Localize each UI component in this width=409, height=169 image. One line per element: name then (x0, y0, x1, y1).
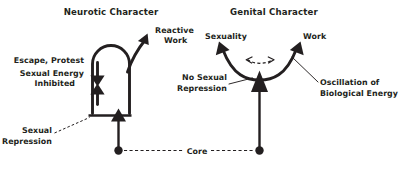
reactive-work-arrow-shaft (128, 40, 146, 73)
no-sexual-repression-label-line1: No Sexual (182, 73, 227, 82)
work-arrowhead (290, 42, 304, 56)
core-label: Core (187, 147, 208, 156)
no-sexual-repression-leader (229, 78, 253, 84)
sexual-repression-leader (55, 118, 90, 134)
neurotic-title: Neurotic Character (64, 7, 159, 17)
sexual-repression-label-line2: Repression (2, 137, 52, 146)
genital-title: Genital Character (230, 7, 318, 17)
core-baseline-group: Core (124, 147, 254, 156)
oscillation-label-line2: Biological Energy (320, 89, 398, 98)
sexuality-arrowhead (216, 42, 230, 56)
sexual-repression-label-line1: Sexual (22, 126, 52, 135)
oscillation-leader (292, 57, 318, 82)
genital-core-arrowhead (251, 71, 268, 93)
escape-protest-label: Escape, Protest (14, 56, 84, 65)
inhibited-label: Inhibited (35, 79, 75, 88)
diagram-canvas: Neurotic Character Reactive Work Escape,… (0, 0, 409, 169)
reactive-work-label-line2: Work (164, 36, 188, 45)
character-structure-diagram: Neurotic Character Reactive Work Escape,… (0, 0, 409, 169)
oscillation-right-arrowhead (268, 57, 274, 63)
genital-core-dot (255, 146, 263, 154)
no-sexual-repression-label-line2: Repression (177, 84, 227, 93)
reactive-work-label-line1: Reactive (155, 26, 194, 35)
genital-panel: Genital Character Sexuality Work No Sexu… (177, 7, 398, 155)
work-label: Work (303, 32, 327, 41)
sexuality-label: Sexuality (205, 32, 247, 41)
sexual-energy-label: Sexual Energy (20, 69, 84, 78)
oscillation-label-line1: Oscillation of (320, 78, 380, 87)
neurotic-core-dot (114, 146, 122, 154)
neurotic-panel: Neurotic Character Reactive Work Escape,… (2, 7, 194, 155)
